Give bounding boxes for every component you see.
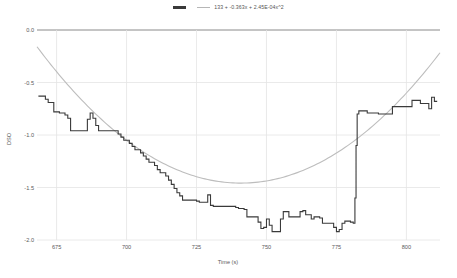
chart-container: 133 + -0.363x + 2.45E-04x^2 DSO 0.0-0.5-…: [0, 0, 457, 278]
chart-svg: [37, 30, 440, 240]
x-tick-label: 675: [52, 244, 61, 250]
x-tick-label: 775: [332, 244, 341, 250]
y-tick-label: -1.5: [24, 185, 34, 191]
plot-area: 0.0-0.5-1.0-1.5-2.0 675700725750775800: [37, 30, 440, 240]
y-tick-label: 0.0: [26, 27, 34, 33]
y-axis-label: DSO: [6, 133, 12, 145]
x-tick-label: 800: [402, 244, 411, 250]
chart-legend: 133 + -0.363x + 2.45E-04x^2: [0, 4, 457, 10]
y-tick-label: -0.5: [24, 80, 34, 86]
x-axis-label: Time (s): [218, 259, 238, 265]
x-tick-label: 750: [262, 244, 271, 250]
y-tick-label: -2.0: [24, 237, 34, 243]
legend-data-swatch-icon: [173, 6, 186, 9]
legend-item-data: [173, 6, 190, 9]
legend-item-fit: 133 + -0.363x + 2.45E-04x^2: [197, 4, 283, 10]
x-tick-label: 700: [122, 244, 131, 250]
legend-fit-swatch-icon: [197, 7, 210, 8]
fit-curve: [37, 47, 440, 183]
legend-item-fit-label: 133 + -0.363x + 2.45E-04x^2: [214, 4, 283, 10]
y-tick-label: -1.0: [24, 132, 34, 138]
x-tick-label: 725: [192, 244, 201, 250]
